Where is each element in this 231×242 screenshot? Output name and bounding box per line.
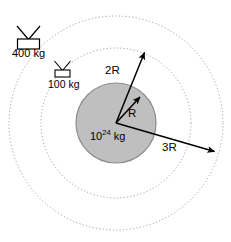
satellite-100kg-label: 100 kg [48, 79, 80, 90]
planet-mass-label: 1024 kg [90, 131, 125, 142]
planet-mass-unit: kg [111, 130, 126, 142]
radius-2r-label: 2R [105, 65, 120, 77]
satellite-100kg-icon [55, 61, 71, 77]
satellite-400kg-icon [17, 26, 40, 49]
satellite-400kg-label: 400 kg [12, 48, 45, 59]
orbital-diagram-svg [0, 0, 231, 242]
radius-r-label: R [128, 108, 136, 120]
planet-mass-base: 10 [90, 130, 102, 142]
radius-3r-label: 3R [162, 142, 177, 154]
planet-mass-exponent: 24 [102, 128, 110, 137]
diagram-canvas: 400 kg 100 kg 1024 kg 2R R 3R [0, 0, 231, 242]
